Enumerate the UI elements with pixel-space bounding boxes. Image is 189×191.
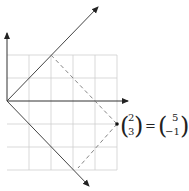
grid bbox=[7, 55, 117, 170]
axes bbox=[7, 33, 128, 101]
lhs-right-paren: ) bbox=[134, 112, 143, 140]
rhs-top: 5 bbox=[172, 112, 178, 123]
basis-vectors bbox=[7, 7, 98, 186]
target-point bbox=[115, 122, 119, 126]
equals-sign: = bbox=[145, 118, 156, 133]
rhs-bottom: −1 bbox=[165, 126, 180, 137]
dashed-guides bbox=[51, 55, 117, 168]
basis-vector-up bbox=[7, 7, 98, 101]
equation: ( 2 3 ) = ( 5 −1 ) bbox=[120, 112, 189, 140]
rhs-right-paren: ) bbox=[180, 112, 189, 140]
change-of-basis-diagram: ( 2 3 ) = ( 5 −1 ) bbox=[0, 0, 189, 191]
basis-vector-down bbox=[7, 101, 89, 186]
